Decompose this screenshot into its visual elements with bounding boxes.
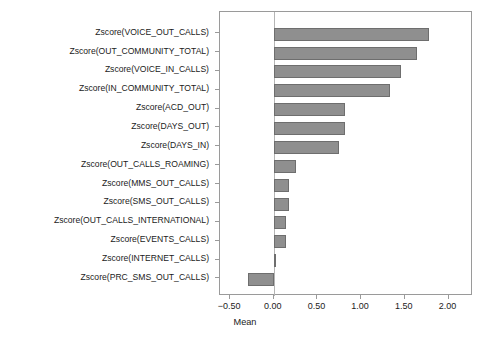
bar-row <box>220 80 471 99</box>
y-axis-label: Zscore(OUT_COMMUNITY_TOTAL) <box>69 46 209 56</box>
y-axis-tick <box>215 240 219 241</box>
bar-row <box>220 250 471 269</box>
bar-row <box>220 118 471 137</box>
y-axis-label: Zscore(ACD_OUT) <box>136 102 209 112</box>
bar-row <box>220 156 471 175</box>
y-axis-label: Zscore(IN_COMMUNITY_TOTAL) <box>79 83 209 93</box>
y-axis-tick <box>215 145 219 146</box>
x-axis-tick <box>404 295 405 299</box>
bar-chart: Zscore(VOICE_OUT_CALLS)Zscore(OUT_COMMUN… <box>0 0 490 338</box>
y-axis-label: Zscore(EVENTS_CALLS) <box>111 234 209 244</box>
bar-row <box>220 231 471 250</box>
bar-row <box>220 61 471 80</box>
y-axis-label: Zscore(MMS_OUT_CALLS) <box>102 178 209 188</box>
y-axis-label: Zscore(VOICE_OUT_CALLS) <box>95 27 209 37</box>
y-axis-label: Zscore(OUT_CALLS_INTERNATIONAL) <box>54 215 209 225</box>
y-axis-tick <box>215 277 219 278</box>
bar <box>274 141 340 154</box>
bar-row <box>220 43 471 62</box>
y-axis-label: Zscore(SMS_OUT_CALLS) <box>103 196 209 206</box>
x-axis-title: Mean <box>0 317 490 327</box>
bar-row <box>220 99 471 118</box>
bar-row <box>220 137 471 156</box>
bar-row <box>220 175 471 194</box>
bar-row <box>220 212 471 231</box>
bar <box>274 122 346 135</box>
bar <box>248 273 273 286</box>
y-axis-label: Zscore(VOICE_IN_CALLS) <box>105 64 209 74</box>
bar <box>274 47 417 60</box>
bar <box>274 160 297 173</box>
x-axis-tick <box>229 295 230 299</box>
bar <box>274 179 290 192</box>
y-axis-tick <box>215 183 219 184</box>
y-axis-tick <box>215 221 219 222</box>
x-axis-tick <box>448 295 449 299</box>
bar-row <box>220 24 471 43</box>
y-axis-tick <box>215 89 219 90</box>
y-axis-tick <box>215 51 219 52</box>
plot-area <box>219 11 472 295</box>
bar-row <box>220 269 471 288</box>
bar <box>274 216 286 229</box>
bar-row <box>220 194 471 213</box>
bar <box>274 198 290 211</box>
y-axis-tick <box>215 70 219 71</box>
y-axis-tick <box>215 108 219 109</box>
y-axis-label: Zscore(DAYS_OUT) <box>131 121 209 131</box>
bar <box>274 28 430 41</box>
y-axis-tick <box>215 32 219 33</box>
bar <box>274 103 346 116</box>
bar <box>274 84 390 97</box>
y-axis-label: Zscore(INTERNET_CALLS) <box>102 253 209 263</box>
y-axis-labels: Zscore(VOICE_OUT_CALLS)Zscore(OUT_COMMUN… <box>0 11 215 295</box>
y-axis-tick <box>215 202 219 203</box>
y-axis-tick <box>215 164 219 165</box>
bar <box>274 235 286 248</box>
x-axis-tick <box>273 295 274 299</box>
y-axis-label: Zscore(PRC_SMS_OUT_CALLS) <box>81 272 209 282</box>
y-axis-tick <box>215 126 219 127</box>
x-axis-tick <box>360 295 361 299</box>
y-axis-label: Zscore(OUT_CALLS_ROAMING) <box>81 159 209 169</box>
x-axis-tick <box>316 295 317 299</box>
y-axis-label: Zscore(DAYS_IN) <box>141 140 209 150</box>
bar <box>274 254 277 267</box>
bar <box>274 65 402 78</box>
x-axis-tick-label: 2.00 <box>418 301 478 311</box>
y-axis-tick <box>215 259 219 260</box>
